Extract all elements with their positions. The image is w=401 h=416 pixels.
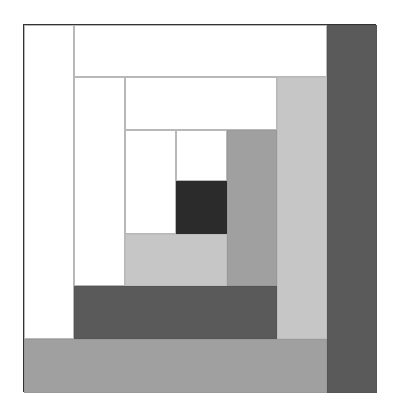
patch-ring3-bottom <box>24 339 327 393</box>
patch-ring1-right <box>227 130 277 286</box>
patch-ring3-left <box>24 25 74 339</box>
patch-ring1-left <box>125 130 176 234</box>
patch-ring1-bottom <box>125 234 227 286</box>
patch-ring3-top <box>74 25 327 77</box>
patch-ring2-bottom <box>74 286 277 339</box>
patch-ring3-right <box>327 25 377 393</box>
patch-ring2-right <box>277 77 327 339</box>
patch-ring2-top <box>125 77 277 130</box>
quilt-block <box>23 24 376 392</box>
patch-ring1-top <box>176 130 227 181</box>
patch-center <box>176 181 227 234</box>
patch-ring2-left <box>74 77 125 286</box>
